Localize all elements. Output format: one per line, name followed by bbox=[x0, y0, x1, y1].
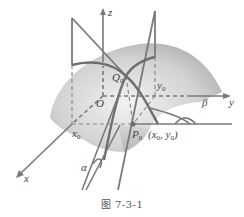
label-y: y bbox=[228, 96, 234, 108]
label-p0: P0 (x0, y0) bbox=[131, 128, 178, 142]
point-p0 bbox=[130, 121, 135, 126]
figure-caption: 图 7-3-1 bbox=[0, 196, 244, 211]
label-x: x bbox=[23, 172, 29, 184]
z-arrow-icon bbox=[100, 8, 106, 15]
label-beta: β bbox=[201, 96, 208, 108]
label-alpha: α bbox=[81, 161, 87, 173]
label-z: z bbox=[107, 6, 113, 18]
label-origin: O bbox=[96, 97, 104, 109]
surface-tangent-diagram: z y x O β α x0 y0 Q0 P0 (x0, y0) 图 7-3-1 bbox=[0, 0, 244, 217]
